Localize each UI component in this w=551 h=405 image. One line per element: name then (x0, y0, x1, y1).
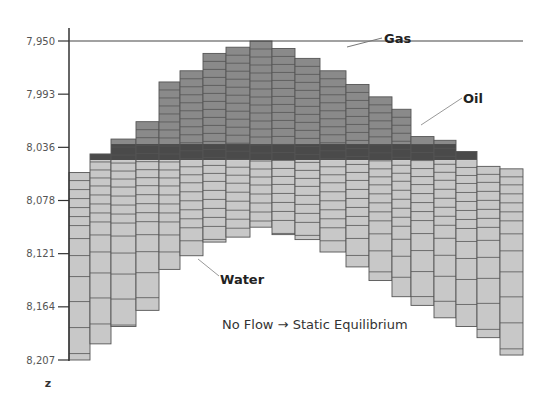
water-zone (203, 160, 226, 242)
grid-column (477, 166, 500, 337)
water-zone (477, 166, 500, 337)
oil-zone (411, 144, 434, 160)
grid-column (369, 97, 392, 281)
caption: No Flow → Static Equilibrium (222, 317, 408, 332)
grid-column (226, 47, 250, 237)
water-leader-line (198, 259, 219, 276)
water-zone (411, 160, 434, 305)
oil-leader-line (421, 98, 462, 125)
water-zone (392, 160, 411, 297)
oil-zone (226, 144, 250, 160)
gas-zone (346, 84, 369, 144)
gas-label: Gas (384, 31, 411, 46)
gas-zone (203, 53, 226, 144)
gas-zone (411, 137, 434, 144)
oil-label: Oil (463, 91, 483, 106)
oil-zone (320, 144, 346, 160)
gas-zone (111, 139, 136, 144)
grid-columns (69, 41, 523, 360)
water-zone (159, 160, 180, 269)
oil-zone (250, 144, 272, 160)
water-zone (434, 160, 456, 318)
oil-zone (111, 144, 136, 160)
water-zone (295, 160, 320, 239)
water-zone (346, 160, 369, 267)
grid-column (456, 151, 477, 326)
grid-column (411, 137, 434, 306)
water-zone (500, 169, 523, 355)
gas-zone (226, 47, 250, 144)
grid-column (111, 139, 136, 326)
reservoir-diagram: 7,9507,9938,0368,0788,1218,1648,207 z Ga… (0, 0, 551, 405)
water-zone (111, 160, 136, 326)
axis-label: z (45, 377, 51, 390)
grid-column (346, 84, 369, 266)
tick-label: 8,078 (26, 195, 55, 206)
water-zone (226, 160, 250, 237)
gas-zone (180, 71, 203, 144)
oil-zone (346, 144, 369, 160)
oil-zone (434, 144, 456, 160)
tick-label: 8,036 (26, 142, 55, 153)
grid-column (250, 41, 272, 227)
gas-zone (320, 71, 346, 144)
gas-leader-line (347, 38, 382, 47)
gas-zone (295, 58, 320, 144)
tick-label: 8,207 (26, 355, 55, 366)
water-zone (272, 160, 295, 234)
water-zone (136, 160, 159, 310)
oil-zone (369, 144, 392, 160)
grid-column (500, 169, 523, 355)
oil-zone (159, 144, 180, 160)
axis-ticks: 7,9507,9938,0368,0788,1218,1648,207 (26, 36, 69, 366)
tick-label: 7,993 (26, 89, 55, 100)
grid-column (320, 71, 346, 252)
tick-label: 8,121 (26, 248, 55, 259)
oil-zone (136, 144, 159, 160)
gas-zone (434, 140, 456, 144)
gas-zone (159, 82, 180, 144)
grid-column (434, 140, 456, 317)
water-zone (369, 160, 392, 280)
gas-zone (136, 122, 159, 144)
tick-label: 8,164 (26, 301, 55, 312)
water-zone (69, 173, 90, 360)
oil-zone (456, 151, 477, 160)
gas-zone (250, 41, 272, 144)
oil-zone (90, 154, 111, 160)
gas-zone (392, 109, 411, 144)
grid-column (203, 53, 226, 242)
water-label: Water (220, 272, 265, 287)
grid-column (392, 109, 411, 296)
grid-column (136, 122, 159, 311)
grid-column (90, 154, 111, 344)
oil-zone (180, 144, 203, 160)
grid-column (272, 48, 295, 234)
water-zone (320, 160, 346, 252)
oil-zone (392, 144, 411, 160)
grid-column (159, 82, 180, 269)
grid-column (69, 173, 90, 360)
water-zone (456, 160, 477, 326)
tick-label: 7,950 (26, 36, 55, 47)
grid-column (295, 58, 320, 239)
grid-column (180, 71, 203, 256)
